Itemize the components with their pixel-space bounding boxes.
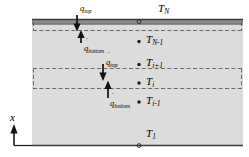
x-axis — [10, 124, 32, 146]
label-x-axis: x — [10, 111, 15, 123]
node-dot-Ti+1 — [137, 63, 140, 66]
node-dot-TN-1 — [137, 40, 140, 43]
diagram-canvas — [0, 0, 249, 157]
node-dot-Ti-1 — [137, 100, 140, 103]
node-dot-Ti — [137, 81, 140, 84]
slab-nodal-diagram: TN TN-1 Ti+1 Ti Ti-1 T1 ˙qtop ˙qbottom ˙… — [0, 0, 249, 157]
